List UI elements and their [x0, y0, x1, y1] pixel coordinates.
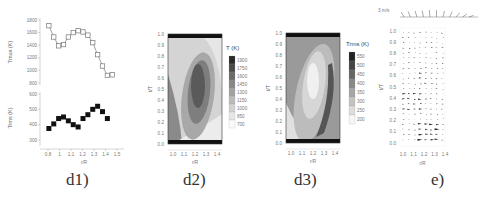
svg-text:1.1: 1.1 [181, 152, 188, 157]
svg-text:1.4: 1.4 [102, 152, 109, 157]
svg-text:0.8: 0.8 [390, 51, 397, 56]
svg-text:550: 550 [357, 54, 365, 59]
svg-text:0.8: 0.8 [158, 54, 165, 59]
svg-text:0.5: 0.5 [158, 87, 165, 92]
svg-text:0.6: 0.6 [390, 73, 397, 78]
svg-text:800: 800 [29, 81, 37, 86]
svg-text:1.3: 1.3 [321, 151, 328, 156]
svg-text:t/T: t/T [265, 84, 271, 91]
svg-text:1.0: 1.0 [288, 151, 295, 156]
panel-d2: 0.00.10.20.30.40.50.60.70.80.91.01.01.11… [130, 0, 250, 168]
svg-text:1.0: 1.0 [390, 29, 397, 34]
svg-text:1900: 1900 [237, 58, 248, 63]
svg-text:400: 400 [29, 122, 37, 127]
svg-text:1.2: 1.2 [310, 151, 317, 156]
svg-text:700: 700 [237, 122, 245, 127]
svg-text:500: 500 [357, 63, 365, 68]
svg-text:0.0: 0.0 [158, 142, 165, 147]
vector-markers [402, 32, 444, 141]
svg-text:1300: 1300 [237, 90, 248, 95]
svg-text:0.1: 0.1 [390, 129, 397, 134]
svg-text:0.4: 0.4 [390, 96, 397, 101]
svg-text:r/R: r/R [192, 160, 199, 165]
svg-text:0.3: 0.3 [390, 107, 397, 112]
svg-text:1.5: 1.5 [114, 152, 121, 157]
svg-text:1.2: 1.2 [192, 152, 199, 157]
svg-text:t/T: t/T [147, 85, 153, 92]
svg-text:0.8: 0.8 [45, 152, 52, 157]
svg-text:Trms (K): Trms (K) [7, 107, 13, 128]
d1-line-charts: 80010001200140016001800Tmax (K)300400500… [0, 0, 130, 168]
svg-text:0.0: 0.0 [276, 141, 283, 146]
svg-text:0.5: 0.5 [276, 86, 283, 91]
svg-text:1: 1 [58, 152, 61, 157]
svg-text:t/T: t/T [378, 83, 384, 90]
svg-text:1.4: 1.4 [214, 152, 221, 157]
svg-text:1800: 1800 [27, 18, 38, 23]
svg-text:1.2: 1.2 [421, 152, 428, 157]
svg-text:1.3: 1.3 [91, 152, 98, 157]
svg-text:3 m/s: 3 m/s [378, 8, 390, 13]
caption-d3: d3) [294, 170, 317, 190]
svg-text:1.0: 1.0 [170, 152, 177, 157]
svg-text:T (K): T (K) [226, 45, 239, 51]
svg-text:600: 600 [29, 92, 37, 97]
svg-text:Tmax (K): Tmax (K) [7, 41, 13, 64]
svg-text:0.7: 0.7 [390, 62, 397, 67]
panel-e: 0.00.10.20.30.40.50.60.70.80.91.01.01.11… [370, 0, 490, 168]
panel-d1: 80010001200140016001800Tmax (K)300400500… [0, 0, 130, 168]
svg-text:0.9: 0.9 [158, 43, 165, 48]
svg-text:1600: 1600 [27, 30, 38, 35]
caption-d1: d1) [66, 170, 89, 190]
svg-text:500: 500 [29, 107, 37, 112]
svg-text:0.4: 0.4 [158, 98, 165, 103]
svg-text:200: 200 [357, 117, 365, 122]
panel-d3: 0.00.10.20.30.40.50.60.70.80.91.01.01.11… [250, 0, 370, 168]
svg-text:0.9: 0.9 [276, 42, 283, 47]
svg-text:300: 300 [357, 99, 365, 104]
svg-text:0.2: 0.2 [158, 120, 165, 125]
svg-text:1.1: 1.1 [68, 152, 75, 157]
svg-text:0.0: 0.0 [390, 141, 397, 146]
svg-text:1.0: 1.0 [400, 152, 407, 157]
svg-text:r/R: r/R [81, 160, 88, 165]
svg-text:850: 850 [237, 114, 245, 119]
svg-text:0.3: 0.3 [276, 108, 283, 113]
svg-text:0.7: 0.7 [158, 65, 165, 70]
svg-text:300: 300 [29, 138, 37, 143]
svg-text:1000: 1000 [237, 106, 248, 111]
svg-text:1.4: 1.4 [442, 152, 449, 157]
svg-text:1600: 1600 [237, 74, 248, 79]
svg-text:0.6: 0.6 [276, 75, 283, 80]
svg-text:0.4: 0.4 [276, 97, 283, 102]
svg-text:1.0: 1.0 [158, 32, 165, 37]
svg-text:0.3: 0.3 [158, 109, 165, 114]
svg-text:Trms (K): Trms (K) [346, 41, 369, 47]
e-vector-field: 0.00.10.20.30.40.50.60.70.80.91.01.01.11… [370, 0, 490, 168]
svg-text:250: 250 [357, 108, 365, 113]
svg-text:1.1: 1.1 [299, 151, 306, 156]
svg-text:r/R: r/R [310, 159, 317, 164]
svg-text:0.5: 0.5 [390, 85, 397, 90]
d2-contour-field [168, 34, 222, 144]
svg-text:0.7: 0.7 [276, 64, 283, 69]
svg-text:450: 450 [357, 72, 365, 77]
svg-text:0.6: 0.6 [158, 76, 165, 81]
svg-text:1.1: 1.1 [410, 152, 417, 157]
svg-text:1450: 1450 [237, 82, 248, 87]
svg-text:400: 400 [357, 81, 365, 86]
svg-text:1150: 1150 [237, 98, 247, 103]
svg-text:1.2: 1.2 [79, 152, 86, 157]
svg-text:r/R: r/R [419, 161, 426, 166]
svg-text:0.2: 0.2 [276, 119, 283, 124]
d3-trms-contour: 0.00.10.20.30.40.50.60.70.80.91.01.01.11… [250, 0, 370, 168]
svg-text:1400: 1400 [27, 43, 38, 48]
d3-contour-field [286, 33, 342, 146]
svg-text:350: 350 [357, 90, 365, 95]
svg-text:1.0: 1.0 [276, 31, 283, 36]
svg-text:1750: 1750 [237, 66, 248, 71]
svg-text:1000: 1000 [27, 68, 38, 73]
caption-d2: d2) [183, 170, 206, 190]
svg-text:1.3: 1.3 [203, 152, 210, 157]
svg-text:1.3: 1.3 [431, 152, 438, 157]
